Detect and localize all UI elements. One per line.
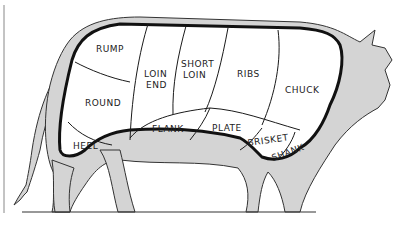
label-loin-end: LOINEND <box>144 69 167 90</box>
label-heel: HEEL <box>73 141 98 151</box>
label-round: ROUND <box>85 98 121 108</box>
label-chuck: CHUCK <box>285 85 320 95</box>
label-flank: FLANK <box>152 124 184 134</box>
label-plate: PLATE <box>212 123 242 133</box>
label-ribs: RIBS <box>237 69 260 79</box>
beef-cuts-diagram: RUMP ROUND LOINEND SHORTLOIN RIBS CHUCK … <box>0 0 399 225</box>
label-rump: RUMP <box>96 44 124 54</box>
